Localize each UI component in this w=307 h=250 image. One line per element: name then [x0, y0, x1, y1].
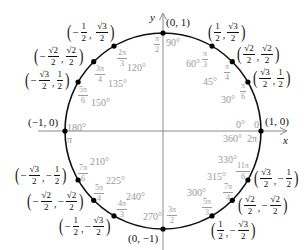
- denominator: 2: [278, 79, 283, 89]
- numerator: 1: [214, 22, 221, 33]
- comma: ,: [274, 176, 277, 186]
- coord-label-210: ( − √32 , − 12 ): [14, 165, 68, 186]
- denominator: 2: [247, 55, 252, 65]
- degree-label-270: 270°: [143, 212, 162, 222]
- denominator: 2: [273, 206, 278, 216]
- minus-sign: −: [229, 225, 235, 236]
- denominator: 3: [205, 208, 209, 217]
- fraction: π4: [224, 63, 230, 82]
- paren-open: (: [237, 44, 241, 63]
- comma: ,: [89, 30, 92, 40]
- denominator: 2: [215, 33, 220, 43]
- numerator: 1: [217, 220, 224, 231]
- denominator: 2: [51, 57, 56, 67]
- numerator: √2: [243, 44, 254, 55]
- radian-label-11pi-6: 11π6: [235, 162, 251, 181]
- radian-label-7pi-6: 7π6: [77, 164, 89, 183]
- numerator: 7π: [223, 183, 233, 193]
- denominator: 4: [97, 194, 101, 203]
- degree-label-0: 0°: [236, 120, 245, 130]
- denominator: 3: [120, 59, 124, 68]
- degree-label-90: 90°: [166, 38, 180, 48]
- denominator: 2: [263, 79, 268, 89]
- fraction: 7π6: [78, 164, 88, 183]
- minus-sign: −: [72, 27, 78, 38]
- radian-label-4pi-3: 4π3: [116, 200, 128, 219]
- denominator: 2: [218, 231, 223, 241]
- denominator: 4: [225, 73, 229, 82]
- paren-close: ): [54, 117, 58, 128]
- fraction: 5π3: [202, 198, 212, 217]
- fraction: √22: [66, 191, 77, 212]
- radian-label-pi-4: π4: [223, 63, 231, 82]
- numerator: 1: [57, 70, 64, 81]
- fraction: √22: [261, 44, 272, 65]
- radian-label-0: 0: [254, 120, 259, 130]
- numerator: 1: [73, 216, 80, 227]
- coord-label-240: ( − 12 , − √32 ): [58, 216, 112, 237]
- denominator: 2: [32, 176, 37, 186]
- denominator: 2: [264, 179, 269, 189]
- numerator: √3: [227, 22, 238, 33]
- fraction: π3: [202, 50, 208, 69]
- fraction: √22: [48, 46, 59, 67]
- denominator: 2: [248, 206, 253, 216]
- coord-label-30: ( √32 , 12 ): [252, 68, 291, 89]
- fraction: 12: [54, 165, 61, 186]
- point-270: [160, 226, 165, 231]
- coord-label-330: ( √32 , − 12 ): [253, 168, 299, 189]
- numerator: 5π: [78, 86, 88, 96]
- comma: ,: [43, 117, 46, 128]
- coord-label-270: (0, −1): [128, 233, 158, 244]
- fraction: √22: [41, 191, 52, 212]
- degree-label-120: 120°: [127, 63, 146, 73]
- coord-label-45: ( √22 , √22 ): [236, 44, 280, 65]
- coord-label-300: ( 12 , − √32 ): [210, 220, 256, 241]
- minus-sign: −: [85, 221, 91, 232]
- coord-label-0: (1, 0): [265, 116, 289, 127]
- numerator: 11π: [236, 162, 250, 172]
- denominator: 2: [69, 57, 74, 67]
- numerator: π: [224, 63, 230, 73]
- minus-sign: −: [277, 173, 283, 184]
- x-axis-label: x: [283, 135, 288, 146]
- fraction: √32: [238, 220, 249, 241]
- denominator: 2: [55, 176, 60, 186]
- numerator: √3: [29, 165, 40, 176]
- numerator: √2: [48, 46, 59, 57]
- radian-label-3pi-4: 3π4: [94, 65, 106, 84]
- fraction: 7π4: [223, 183, 233, 202]
- minus-sign: −: [32, 196, 38, 207]
- fraction: √22: [66, 46, 77, 67]
- fraction: 12: [277, 68, 284, 89]
- minus-sign: −: [46, 170, 52, 181]
- comma: ,: [81, 224, 84, 234]
- paren-close: ): [251, 220, 255, 239]
- fraction: √32: [93, 216, 104, 237]
- coord-y: −1: [143, 233, 155, 244]
- paren-close: ): [65, 70, 69, 89]
- numerator: √2: [261, 44, 272, 55]
- numerator: √3: [260, 168, 271, 179]
- coord-label-135: ( − √22 , √22 ): [33, 46, 84, 67]
- paren-open: (: [208, 22, 212, 41]
- coord-label-60: ( 12 , √32 ): [207, 22, 246, 43]
- degree-label-135: 135°: [108, 79, 127, 89]
- fraction: 3π4: [95, 65, 105, 84]
- fraction: π2: [154, 35, 160, 54]
- fraction: √32: [227, 22, 238, 43]
- fraction: √22: [270, 195, 281, 216]
- numerator: √3: [238, 220, 249, 231]
- fraction: 5π4: [94, 184, 104, 203]
- paren-close: ): [62, 165, 66, 184]
- fraction: √32: [259, 68, 270, 89]
- fraction: 12: [286, 168, 293, 189]
- paren-close: ): [283, 195, 287, 214]
- fraction: 12: [73, 216, 80, 237]
- denominator: 2: [58, 81, 63, 91]
- comma: ,: [61, 54, 64, 64]
- comma: ,: [257, 52, 260, 62]
- coord-label-150: ( − √32 , 12 ): [24, 70, 70, 91]
- numerator: √2: [244, 195, 255, 206]
- fraction: 11π6: [236, 162, 250, 181]
